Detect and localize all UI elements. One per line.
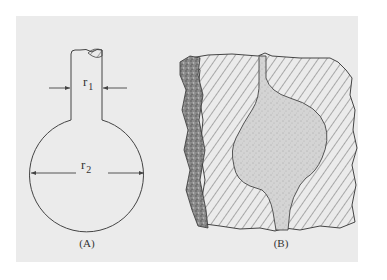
panel-a-label: (A) <box>79 237 94 249</box>
r2-subscript: 2 <box>86 164 91 175</box>
figure-panel: r1 r2 (A) (B) <box>16 16 358 262</box>
panel-b-label: (B) <box>274 237 289 249</box>
r1-symbol: r <box>83 74 87 89</box>
r1-label: r1 <box>83 74 93 90</box>
figure-drawing <box>16 16 358 262</box>
r2-label: r2 <box>81 157 91 173</box>
neck-cut-cap <box>88 49 102 57</box>
panel-b-rock-section <box>180 53 357 231</box>
r1-subscript: 1 <box>88 81 93 92</box>
r2-symbol: r <box>81 157 85 172</box>
